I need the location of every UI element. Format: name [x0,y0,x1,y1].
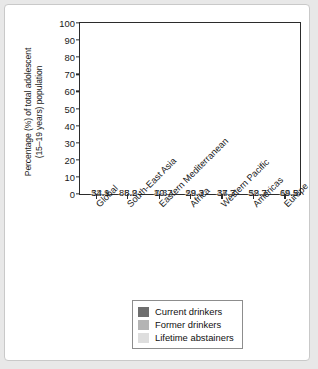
y-axis-tick-label: 40 [40,120,80,131]
y-axis-tick-mark [76,108,80,109]
y-axis-tick-label: 90 [40,35,80,46]
y-axis-tick-label: 20 [40,154,80,165]
plot-inner: 100908070605040302010053.91234.1Global85… [80,23,300,194]
y-axis-tick-mark [76,159,80,160]
y-axis-tick-mark [76,74,80,75]
legend-swatch-lifetime-abstainers [138,333,149,343]
y-axis-tick-mark [76,22,80,23]
y-axis-tick-mark [76,176,80,177]
y-axis-tick-label: 80 [40,52,80,63]
y-axis-tick-label: 60 [40,86,80,97]
y-axis-tick-mark [76,39,80,40]
y-axis-tick-mark [76,193,80,194]
y-axis-tick-mark [76,142,80,143]
y-axis-tick-mark [76,125,80,126]
y-axis-tick-label: 10 [40,171,80,182]
legend-label-current-drinkers: Current drinkers [155,306,222,317]
legend-item-current-drinkers: Current drinkers [138,305,234,318]
chart-card: Percentage (%) of total adolescent (15–1… [4,4,310,361]
y-axis-tick-label: 100 [40,18,80,29]
legend-label-former-drinkers: Former drinkers [155,319,221,330]
chart-legend: Current drinkers Former drinkers Lifetim… [132,300,243,349]
plot-area: 100908070605040302010053.91234.1Global85… [79,22,301,195]
legend-label-lifetime-abstainers: Lifetime abstainers [155,332,234,343]
legend-swatch-current-drinkers [138,307,149,317]
legend-swatch-former-drinkers [138,320,149,330]
y-axis-tick-label: 30 [40,137,80,148]
y-axis-tick-label: 70 [40,69,80,80]
y-axis-tick-mark [76,91,80,92]
y-axis-tick-label: 0 [40,189,80,200]
legend-item-former-drinkers: Former drinkers [138,318,234,331]
y-axis-tick-label: 50 [40,103,80,114]
y-axis-tick-mark [76,57,80,58]
legend-item-lifetime-abstainers: Lifetime abstainers [138,331,234,344]
